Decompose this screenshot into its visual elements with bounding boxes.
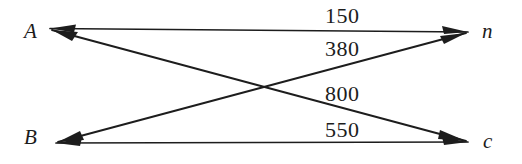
edge-label-a-n: 150 [325, 5, 360, 27]
edge-b-to-n [58, 33, 466, 142]
node-label-c: c [483, 131, 492, 152]
edge-line-b-c [56, 142, 468, 143]
edge-line-a-n [50, 29, 468, 33]
edge-line-b-n [58, 33, 466, 142]
edge-line-a-c [52, 30, 466, 141]
network-edges-canvas [0, 0, 522, 164]
arrowhead-a-c-right [438, 130, 466, 141]
node-label-a: A [24, 21, 37, 42]
node-label-b: B [24, 127, 37, 148]
arrowhead-b-n-right [440, 33, 466, 44]
edge-a-to-n [50, 25, 468, 35]
node-label-n: n [482, 21, 493, 42]
edge-label-a-c: 800 [325, 83, 360, 105]
edge-b-to-c [56, 137, 468, 146]
edge-label-b-n: 380 [325, 38, 360, 60]
edge-label-b-c: 550 [325, 119, 360, 141]
network-diagram: A B n c 150 380 800 550 [0, 0, 522, 164]
edge-a-to-c [52, 30, 466, 141]
